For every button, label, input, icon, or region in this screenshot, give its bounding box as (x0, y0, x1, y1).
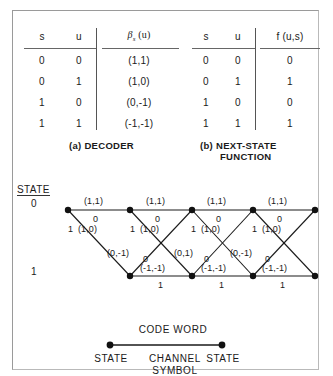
nextstate-header-u: u (228, 30, 248, 43)
figure-container: s u βs (u) 0 0 (1,1) 0 1 (1,0) 1 0 (0,-1… (0, 0, 333, 376)
top-codeword-4: (1,1) (268, 196, 287, 206)
bottom-bit-1: 1 (158, 280, 163, 290)
decoder-r3-s: 1 (32, 117, 52, 130)
descending-codeword-3: (1,0) (201, 224, 220, 234)
nextstate-r3-s: 1 (196, 117, 216, 130)
top-codeword-3: (1,1) (207, 196, 226, 206)
legend-left-state-label: STATE (86, 353, 136, 365)
decoder-table: s u βs (u) 0 0 (1,1) 0 1 (1,0) 1 0 (0,-1… (24, 28, 179, 48)
legend-codeword-label: CODE WORD (128, 324, 218, 336)
top-bit-3: 0 (216, 214, 221, 224)
legend-right-state-label: STATE (198, 353, 248, 365)
bottom-codeword-1: (-1,-1) (140, 263, 165, 273)
nextstate-header-rule-right (260, 48, 320, 49)
decoder-r3-beta: (-1,-1) (104, 117, 174, 130)
ascending-codeword-3: (0,-1) (230, 248, 252, 258)
nextstate-r0-f: 0 (260, 54, 320, 67)
descending-bit-2: 1 (130, 224, 135, 234)
decoder-table-header: s u βs (u) (24, 28, 179, 48)
top-bit-4: 0 (277, 214, 282, 224)
descending-bit-4: 1 (252, 224, 257, 234)
nextstate-r2-s: 1 (196, 96, 216, 109)
legend-channel-label-line2: SYMBOL (140, 365, 210, 376)
table-row: 0 1 (1,0) (24, 75, 179, 95)
bottom-bit-2: 1 (219, 280, 224, 290)
descending-bit-1: 1 (68, 224, 73, 234)
descending-codeword-2: (1,0) (140, 224, 159, 234)
table-row: 0 1 1 (192, 75, 322, 95)
next-state-table-header: s u f (u,s) (192, 28, 322, 48)
table-row: 1 0 0 (192, 96, 322, 116)
nextstate-header-f: f (u,s) (260, 30, 320, 43)
table-row: 1 1 (-1,-1) (24, 117, 179, 137)
top-codeword-1: (1,1) (84, 196, 103, 206)
decoder-header-s: s (32, 30, 52, 43)
nextstate-r1-u: 1 (228, 75, 248, 88)
decoder-caption: (a) DECODER (54, 140, 149, 151)
decoder-r3-u: 1 (69, 117, 89, 130)
descending-codeword-4: (1,0) (262, 224, 281, 234)
decoder-r1-beta: (1,0) (104, 75, 174, 88)
ascending-codeword-2: (0,1) (174, 248, 193, 258)
bottom-codeword-2: (-1,-1) (201, 263, 226, 273)
nextstate-r1-f: 1 (260, 75, 320, 88)
decoder-r0-u: 0 (69, 54, 89, 67)
decoder-header-beta: βs (u) (104, 28, 174, 46)
table-row: 1 0 (0,-1) (24, 96, 179, 116)
bottom-bit-3: 1 (280, 280, 285, 290)
decoder-r1-s: 0 (32, 75, 52, 88)
descending-codeword-1: (1,0) (78, 224, 97, 234)
decoder-header-rule-right (102, 48, 179, 49)
table-row: 0 0 0 (192, 54, 322, 74)
decoder-r0-beta: (1,1) (104, 54, 174, 67)
decoder-r2-s: 1 (32, 96, 52, 109)
table-row: 1 1 1 (192, 117, 322, 137)
nextstate-caption-line2: FUNCTION (220, 151, 333, 162)
nextstate-r2-u: 0 (228, 96, 248, 109)
next-state-table: s u f (u,s) 0 0 0 0 1 1 1 0 0 1 1 1 (b) … (192, 28, 322, 48)
top-bit-1: 0 (93, 214, 98, 224)
nextstate-r2-f: 0 (260, 96, 320, 109)
bottom-codeword-3: (-1,-1) (262, 263, 287, 273)
nextstate-caption-line1: (b) NEXT-STATE (200, 140, 320, 151)
nextstate-r0-s: 0 (196, 54, 216, 67)
top-bit-2: 0 (155, 214, 160, 224)
trellis-diagram: STATE 0 1 (0, 178, 333, 308)
nextstate-header-rule-left (192, 48, 255, 49)
decoder-r2-beta: (0,-1) (104, 96, 174, 109)
ascending-codeword-1: (0,-1) (107, 248, 129, 258)
decoder-r2-u: 0 (69, 96, 89, 109)
nextstate-r0-u: 0 (228, 54, 248, 67)
nextstate-r1-s: 0 (196, 75, 216, 88)
descending-bit-3: 1 (191, 224, 196, 234)
nextstate-r3-u: 1 (228, 117, 248, 130)
trellis-legend: CODE WORD STATE CHANNEL SYMBOL STATE (0, 322, 333, 376)
decoder-r1-u: 1 (69, 75, 89, 88)
decoder-r0-s: 0 (32, 54, 52, 67)
top-codeword-2: (1,1) (146, 196, 165, 206)
decoder-header-u: u (69, 30, 89, 43)
decoder-header-rule-left (24, 48, 96, 49)
nextstate-r3-f: 1 (260, 117, 320, 130)
nextstate-header-s: s (196, 30, 216, 43)
table-row: 0 0 (1,1) (24, 54, 179, 74)
